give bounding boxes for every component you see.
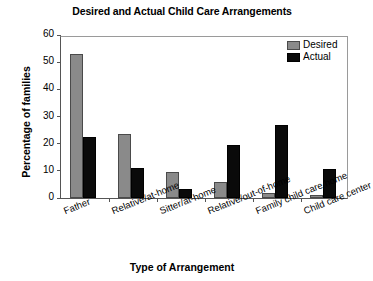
bar-group	[214, 37, 240, 198]
legend-entry[interactable]: Actual	[287, 52, 337, 62]
y-tick-label: 50	[43, 55, 54, 66]
y-tick-label: 0	[48, 191, 54, 202]
chart-legend: DesiredActual	[287, 40, 337, 62]
bar-group	[118, 37, 144, 198]
bar-group	[70, 37, 96, 198]
y-tick-label: 20	[43, 137, 54, 148]
legend-label: Desired	[303, 40, 337, 50]
bar-actual[interactable]	[227, 145, 240, 198]
bar-desired[interactable]	[70, 54, 83, 198]
y-tick-label: 30	[43, 110, 54, 121]
legend-swatch-icon	[287, 41, 300, 50]
x-axis-title: Type of Arrangement	[0, 261, 364, 273]
bar-actual[interactable]	[83, 137, 96, 198]
y-tick-label: 10	[43, 164, 54, 175]
y-tick-mark	[57, 35, 61, 36]
x-tick-mark	[109, 198, 110, 202]
legend-swatch-icon	[287, 53, 300, 62]
legend-entry[interactable]: Desired	[287, 40, 337, 50]
legend-label: Actual	[303, 52, 331, 62]
bar-desired[interactable]	[118, 134, 131, 198]
y-axis-title: Percentage of families	[20, 47, 32, 197]
bar-group	[166, 37, 192, 198]
y-tick-label: 60	[43, 28, 54, 39]
chart-title: Desired and Actual Child Care Arrangemen…	[0, 5, 364, 17]
y-tick-label: 40	[43, 82, 54, 93]
